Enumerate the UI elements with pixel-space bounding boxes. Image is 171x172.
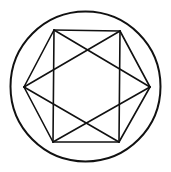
rectangle-edge-left [53,30,54,142]
hexagon-edge-top [54,30,120,31]
outer-circle [11,12,161,162]
hexagon-in-circle-figure [0,0,171,172]
diagram-canvas [0,0,171,172]
line-segments [24,30,150,142]
diagonal-right-to-bottom-left [53,87,150,142]
rectangle-edge-right [119,31,120,142]
